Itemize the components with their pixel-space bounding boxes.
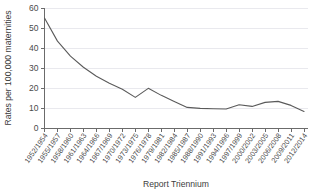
y-tick-label: 50 [29, 23, 39, 33]
y-axis: 0102030405060 [29, 3, 44, 134]
x-axis: 1952/19541955/19571958/19601961/19631964… [22, 129, 309, 165]
y-tick-label: 30 [29, 63, 39, 73]
y-tick-group: 0102030405060 [29, 3, 44, 134]
x-axis-title: Report Triennium [143, 179, 209, 189]
y-tick-label: 10 [29, 103, 39, 113]
y-tick-label: 20 [29, 83, 39, 93]
y-tick-label: 0 [34, 123, 39, 133]
data-series-line [45, 18, 305, 111]
y-tick-label: 60 [29, 3, 39, 13]
y-axis-title: Rates per 100,000 maternities [3, 10, 13, 125]
x-tick-group: 1952/19541955/19571958/19601961/19631964… [22, 129, 309, 165]
chart-page: 0102030405060 1952/19541955/19571958/196… [0, 0, 314, 194]
gridlines [45, 8, 309, 108]
y-tick-label: 40 [29, 43, 39, 53]
line-chart: 0102030405060 1952/19541955/19571958/196… [0, 0, 314, 194]
y-axis-title-group: Rates per 100,000 maternities [3, 10, 13, 125]
